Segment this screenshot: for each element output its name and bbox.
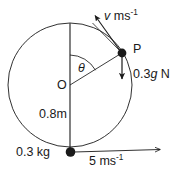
velocity-label: v ms-1 [104, 10, 138, 23]
mass-label: 0.3 kg [16, 146, 50, 159]
centre-O-label: O [57, 79, 67, 92]
theta-symbol: θ [78, 61, 85, 75]
weight-label: 0.3g N [133, 68, 170, 81]
weight-prefix: 0.3 [133, 67, 150, 81]
weight-unit: N [161, 67, 170, 81]
radius-length-label: 0.8m [39, 108, 67, 121]
velocity-exponent: -1 [130, 8, 137, 17]
speed-exponent: -1 [116, 153, 123, 162]
velocity-unit: ms [114, 9, 131, 23]
point-mass-marker [66, 147, 76, 157]
velocity-leader-line [93, 23, 122, 52]
speed-unit: ms [99, 154, 116, 168]
point-P-label: P [133, 43, 141, 56]
speed-label: 5 ms-1 [89, 155, 123, 168]
speed-arrow [74, 150, 160, 153]
angle-theta-label: θ [78, 62, 85, 75]
speed-value: 5 [89, 154, 96, 168]
physics-diagram: v ms-1 P 0.3g N θ O 0.8m 0.3 kg 5 ms-1 [0, 0, 179, 176]
